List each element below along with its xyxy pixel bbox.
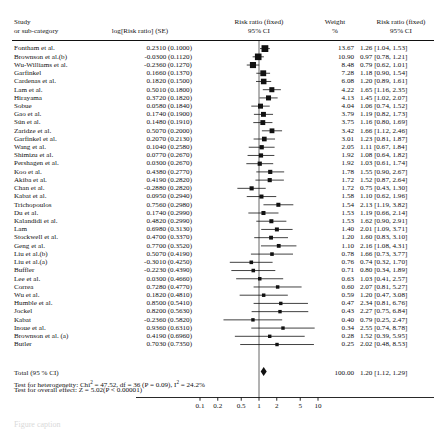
point-estimate-marker	[281, 326, 284, 329]
point-estimate-marker	[258, 162, 262, 166]
point-estimate-marker	[266, 95, 271, 100]
log-risk-ratio-se: 0.5070 (0.2000)	[88, 127, 192, 135]
point-estimate-marker	[268, 335, 271, 338]
forest-row-marker	[254, 285, 302, 288]
study-name: Sún et al.	[14, 118, 41, 126]
forest-row-marker	[256, 79, 271, 85]
study-weight: 1.92	[316, 151, 354, 159]
forest-row-marker	[251, 104, 269, 109]
study-risk-ratio-ci: 1.62 [0.90, 2.91]	[360, 217, 444, 225]
forest-row-marker	[247, 195, 276, 199]
study-risk-ratio-ci: 1.20 [0.47, 3.08]	[360, 291, 444, 299]
study-name: Garfinkel	[14, 69, 41, 77]
point-estimate-marker	[261, 79, 267, 85]
total-weight: 100.00	[316, 369, 354, 377]
log-risk-ratio-se: 0.1740 (0.2990)	[88, 209, 192, 217]
study-name: Zaridze et al.	[14, 127, 51, 135]
study-name: Humble et al.	[14, 299, 52, 307]
forest-row-marker	[246, 162, 273, 166]
point-estimate-marker	[251, 318, 254, 321]
col-header-weight-line1: Weight	[316, 18, 354, 26]
log-risk-ratio-se: 0.3720 (0.1820)	[88, 94, 192, 102]
point-estimate-marker	[270, 252, 274, 256]
point-estimate-marker	[249, 261, 253, 265]
study-name: Garfinkel et al.	[14, 135, 57, 143]
study-risk-ratio-ci: 1.19 [0.66, 2.14]	[360, 209, 444, 217]
log-risk-ratio-se: 0.7280 (0.4770)	[88, 283, 192, 291]
study-risk-ratio-ci: 1.65 [1.16, 2.35]	[360, 86, 444, 94]
study-name: Kabat et al.	[14, 192, 47, 200]
log-risk-ratio-se: 0.7560 (0.2980)	[88, 201, 192, 209]
forest-row-marker	[255, 178, 283, 182]
study-weight: 4.04	[316, 102, 354, 110]
study-risk-ratio-ci: 2.55 [0.74, 8.78]	[360, 324, 444, 332]
overall-effect-test: Test for overall effect: Z = 5.02(P < 0.…	[14, 386, 142, 394]
study-risk-ratio-ci: 1.03 [0.61, 1.74]	[360, 159, 444, 167]
study-risk-ratio-ci: 0.97 [0.78, 1.21]	[360, 53, 444, 61]
log-risk-ratio-se: 0.7030 (0.7350)	[88, 340, 192, 348]
point-estimate-marker	[279, 302, 282, 305]
study-name: Sobue	[14, 102, 32, 110]
log-risk-ratio-se: 0.4380 (0.2770)	[88, 168, 192, 176]
study-risk-ratio-ci: 1.19 [0.82, 1.73]	[360, 110, 444, 118]
study-risk-ratio-ci: 1.66 [0.73, 3.77]	[360, 250, 444, 258]
study-risk-ratio-ci: 0.79 [0.62, 1.01]	[360, 61, 444, 69]
study-name: Geng et al.	[14, 242, 45, 250]
log-risk-ratio-se: 0.0300 (0.4660)	[88, 275, 192, 283]
col-header-plot-line1: Risk ratio (fixed)	[199, 18, 319, 26]
study-name: Kabat	[14, 316, 31, 324]
study-weight: 0.43	[316, 307, 354, 315]
col-header-rr-line1: Risk ratio (fixed)	[358, 18, 444, 26]
study-risk-ratio-ci: 1.20 [0.89, 1.61]	[360, 77, 444, 85]
study-risk-ratio-ci: 2.34 [0.81, 6.76]	[360, 299, 444, 307]
study-name: Du et al.	[14, 209, 38, 217]
forest-row-marker	[248, 153, 275, 157]
study-risk-ratio-ci: 0.75 [0.43, 1.30]	[360, 184, 444, 192]
point-estimate-marker	[258, 277, 261, 280]
study-name: Akiba et al.	[14, 176, 47, 184]
study-weight: 0.28	[316, 332, 354, 340]
point-estimate-marker	[276, 203, 280, 207]
study-risk-ratio-ci: 1.45 [1.02, 2.07]	[360, 94, 444, 102]
study-name: Correa	[14, 283, 33, 291]
log-risk-ratio-se: 0.0950 (0.2940)	[88, 192, 192, 200]
point-estimate-marker	[278, 310, 281, 313]
study-name: Lam	[14, 225, 27, 233]
study-weight: 1.72	[316, 176, 354, 184]
study-weight: 0.63	[316, 275, 354, 283]
study-name: Brownson et al.(b)	[14, 53, 67, 61]
study-weight: 13.67	[316, 44, 354, 52]
log-risk-ratio-se: 0.4190 (0.6960)	[88, 332, 192, 340]
log-risk-ratio-se: 0.0580 (0.1840)	[88, 102, 192, 110]
study-risk-ratio-ci: 1.10 [0.62, 1.96]	[360, 192, 444, 200]
study-risk-ratio-ci: 1.06 [0.74, 1.52]	[360, 102, 444, 110]
study-risk-ratio-ci: 2.27 [0.75, 6.84]	[360, 307, 444, 315]
forest-row-marker	[249, 145, 275, 149]
point-estimate-marker	[276, 285, 279, 288]
log-risk-ratio-se: 0.1820 (0.4810)	[88, 291, 192, 299]
point-estimate-marker	[252, 269, 256, 273]
forest-row-marker	[251, 252, 293, 256]
log-risk-ratio-se: 0.2310 (0.1000)	[88, 44, 192, 52]
study-weight: 3.42	[316, 127, 354, 135]
log-risk-ratio-se: 0.1660 (0.1370)	[88, 69, 192, 77]
log-risk-ratio-se: -0.2230 (0.4390)	[88, 266, 192, 274]
log-risk-ratio-se: 0.0770 (0.2670)	[88, 151, 192, 159]
forest-row-marker	[263, 87, 281, 92]
study-risk-ratio-ci: 1.55 [0.90, 2.67]	[360, 168, 444, 176]
study-weight: 0.78	[316, 250, 354, 258]
forest-row-marker	[248, 211, 278, 215]
study-risk-ratio-ci: 1.52 [0.39, 5.95]	[360, 332, 444, 340]
study-name: Pershagen et al.	[14, 159, 59, 167]
log-risk-ratio-se: -0.2880 (0.2820)	[88, 184, 192, 192]
study-risk-ratio-ci: 2.07 [0.81, 5.27]	[360, 283, 444, 291]
study-weight: 0.59	[316, 291, 354, 299]
study-weight: 1.78	[316, 168, 354, 176]
study-weight: 0.34	[316, 324, 354, 332]
log-risk-ratio-se: -0.2360 (0.1270)	[88, 61, 192, 69]
point-estimate-marker	[262, 293, 265, 296]
study-weight: 3.79	[316, 110, 354, 118]
log-risk-ratio-se: 0.8500 (0.5410)	[88, 299, 192, 307]
study-name: Cardenas et al.	[14, 77, 56, 85]
study-risk-ratio-ci: 0.74 [0.32, 1.70]	[360, 258, 444, 266]
